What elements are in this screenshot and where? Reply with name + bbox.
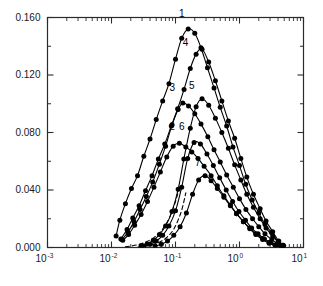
curve-label-1: 1: [179, 8, 185, 19]
data-point: [138, 207, 143, 212]
data-point: [212, 85, 217, 90]
data-point: [206, 60, 211, 65]
data-point: [173, 57, 178, 62]
data-point: [200, 96, 205, 101]
data-point: [258, 216, 263, 221]
data-point: [154, 117, 159, 122]
data-point: [213, 78, 218, 83]
data-point: [226, 146, 231, 151]
data-point: [204, 152, 209, 157]
data-point: [250, 216, 255, 221]
data-point: [198, 142, 203, 147]
data-point: [188, 126, 193, 131]
data-point: [215, 186, 220, 191]
data-point: [177, 141, 182, 146]
data-point: [209, 178, 214, 183]
data-point: [186, 103, 191, 108]
data-point: [230, 199, 235, 204]
data-point: [165, 239, 170, 244]
chart-figure: 1435267 0.0000.0400.0800.1200.16010-310-…: [0, 0, 323, 286]
data-point: [231, 185, 236, 190]
y-tick-label: 0.000: [15, 242, 40, 253]
x-tick-label: 100: [227, 252, 243, 264]
data-point: [205, 134, 210, 139]
data-point: [188, 66, 193, 71]
x-tick-exponent: 1: [304, 252, 308, 259]
data-point: [148, 136, 153, 141]
data-point: [160, 98, 165, 103]
data-point: [183, 144, 188, 149]
curve-label-2: 2: [169, 121, 175, 132]
data-point: [217, 175, 222, 180]
data-point: [251, 205, 256, 210]
data-point: [226, 119, 231, 124]
x-tick-exponent: -2: [112, 252, 118, 259]
data-point: [196, 177, 201, 182]
data-point: [186, 27, 191, 32]
data-point: [219, 98, 224, 103]
chart-canvas: 1435267 0.0000.0400.0800.1200.16010-310-…: [0, 0, 323, 286]
data-point: [244, 192, 249, 197]
data-point: [164, 154, 169, 159]
data-point: [145, 199, 150, 204]
data-point: [114, 234, 119, 239]
data-point: [244, 175, 249, 180]
data-point: [135, 173, 140, 178]
x-tick-mantissa: 10: [163, 253, 175, 264]
data-point: [144, 194, 149, 199]
data-point: [264, 218, 269, 223]
data-point: [218, 105, 223, 110]
curve-label-7: 7: [195, 157, 201, 168]
data-point: [238, 177, 243, 182]
data-point: [224, 172, 229, 177]
y-tick-label: 0.080: [15, 127, 40, 138]
data-point: [256, 224, 261, 229]
data-point: [211, 163, 216, 168]
data-point: [232, 162, 237, 167]
data-point: [141, 154, 146, 159]
data-point: [190, 192, 195, 197]
data-point: [228, 203, 233, 208]
data-point: [234, 211, 239, 216]
data-point: [120, 238, 125, 243]
data-point: [194, 104, 199, 109]
data-point: [150, 180, 155, 185]
data-point: [232, 136, 237, 141]
data-point: [123, 201, 128, 206]
curve-label-3: 3: [169, 82, 175, 93]
data-point: [178, 224, 183, 229]
data-point: [243, 182, 248, 187]
data-point: [139, 212, 144, 217]
data-point: [180, 101, 185, 106]
data-point: [117, 218, 122, 223]
data-point: [260, 236, 265, 241]
data-point: [247, 226, 252, 231]
x-tick-label: 10-3: [35, 252, 53, 264]
data-point: [237, 163, 242, 168]
data-point: [218, 159, 223, 164]
data-point: [171, 144, 176, 149]
x-tick-exponent: -3: [48, 252, 54, 259]
data-point: [206, 103, 211, 108]
series-3: [119, 101, 285, 249]
data-point: [230, 144, 235, 149]
data-point: [192, 31, 197, 36]
x-tick-label: 10-2: [99, 252, 117, 264]
data-point: [171, 233, 176, 238]
x-tick-label: 10-1: [163, 252, 181, 264]
data-point: [126, 232, 131, 237]
data-point: [202, 164, 207, 169]
series-layer: [114, 27, 287, 249]
data-point: [224, 124, 229, 129]
curve-label-4: 4: [183, 37, 189, 48]
data-point: [237, 196, 242, 201]
data-point: [166, 223, 171, 228]
x-tick-mantissa: 10: [291, 253, 303, 264]
x-tick-exponent: -1: [176, 252, 182, 259]
data-point: [129, 186, 134, 191]
data-point: [238, 156, 243, 161]
data-point: [150, 173, 155, 178]
y-tick-label: 0.160: [15, 12, 40, 23]
data-point: [221, 195, 226, 200]
data-point: [143, 188, 148, 193]
